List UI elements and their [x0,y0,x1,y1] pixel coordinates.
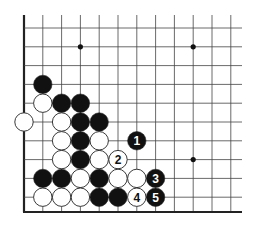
star-point-icon [78,44,83,49]
move-number-label: 2 [115,153,122,167]
black-stone-icon [52,169,70,187]
star-point-icon [191,44,196,49]
black-stone-icon [34,169,52,187]
go-board: 12345 [0,0,255,226]
black-stone-icon [90,169,108,187]
black-stone-icon [34,75,52,93]
white-stone [71,188,89,206]
black-stone [34,75,52,93]
white-stone-icon [128,169,146,187]
white-stone [52,113,70,131]
move-number-label: 5 [152,191,159,205]
black-stone [90,188,108,206]
black-stone-icon [90,113,108,131]
white-stone-icon [15,113,33,131]
black-stone [90,169,108,187]
white-stone [52,150,70,168]
white-stone [15,113,33,131]
white-stone-icon [34,94,52,112]
black-stone-icon [90,188,108,206]
black-stone [71,150,89,168]
white-stone [109,169,127,187]
move-number-label: 4 [133,191,140,205]
white-stone [71,169,89,187]
black-stone-move-5: 5 [146,188,164,206]
black-stone-icon [71,113,89,131]
white-stone-icon [71,188,89,206]
white-stone-icon [90,150,108,168]
white-stone [90,132,108,150]
white-stone-icon [52,188,70,206]
black-stone-icon [71,150,89,168]
white-stone-icon [52,132,70,150]
white-stone [34,188,52,206]
white-stone-move-2: 2 [109,150,127,168]
black-stone [109,188,127,206]
star-point-icon [191,157,196,162]
black-stone-move-1: 1 [128,132,146,150]
black-stone-icon [109,188,127,206]
white-stone-icon [52,150,70,168]
white-stone [52,132,70,150]
black-stone [52,169,70,187]
white-stone-icon [34,188,52,206]
white-stone-icon [71,169,89,187]
white-stone [34,94,52,112]
white-stone [90,150,108,168]
black-stone-icon [52,94,70,112]
black-stone [71,132,89,150]
white-stone-icon [52,113,70,131]
black-stone [71,94,89,112]
white-stone-move-4: 4 [128,188,146,206]
move-number-label: 1 [133,134,140,148]
black-stone-icon [71,94,89,112]
white-stone [128,169,146,187]
move-number-label: 3 [152,172,159,186]
black-stone-move-3: 3 [146,169,164,187]
black-stone-icon [71,132,89,150]
white-stone-icon [90,132,108,150]
black-stone [34,169,52,187]
black-stone [90,113,108,131]
white-stone [52,188,70,206]
black-stone [71,113,89,131]
black-stone [52,94,70,112]
white-stone-icon [109,169,127,187]
